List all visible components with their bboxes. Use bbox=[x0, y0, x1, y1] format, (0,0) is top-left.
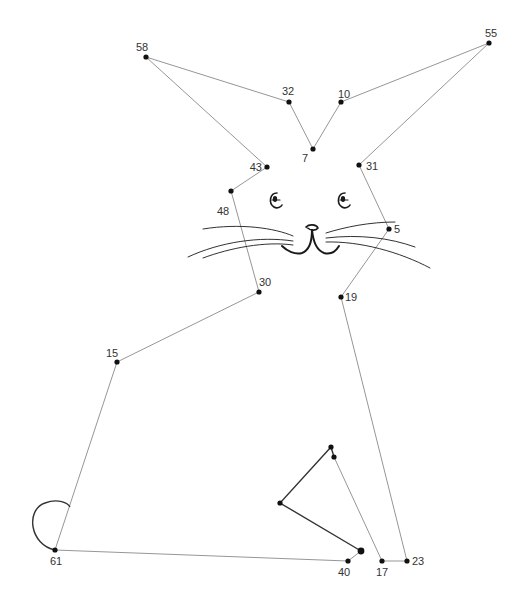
dot-unlabeled bbox=[358, 548, 365, 555]
dot-40: 40 bbox=[338, 558, 351, 578]
dot-marker bbox=[338, 99, 343, 104]
dot-unlabeled bbox=[331, 454, 336, 459]
dot-marker bbox=[328, 444, 333, 449]
dot-19: 19 bbox=[338, 291, 357, 303]
dot-unlabeled bbox=[277, 500, 282, 505]
right-eye-icon bbox=[338, 193, 350, 208]
dot-marker bbox=[486, 40, 491, 45]
dot-marker bbox=[331, 454, 336, 459]
dot-number-label: 19 bbox=[345, 291, 357, 303]
dot-marker bbox=[277, 500, 282, 505]
dot-32: 32 bbox=[282, 85, 294, 105]
dot-number-label: 58 bbox=[136, 41, 148, 53]
connecting-lines bbox=[55, 43, 489, 561]
dot-marker bbox=[143, 54, 148, 59]
dot-to-dot-canvas: 583210557433148530191561401723 bbox=[0, 0, 523, 600]
dot-number-label: 30 bbox=[259, 276, 271, 288]
dot-marker bbox=[52, 547, 57, 552]
dot-number-label: 23 bbox=[412, 555, 424, 567]
dot-number-label: 5 bbox=[394, 223, 400, 235]
dot-marker bbox=[345, 558, 350, 563]
left-eye-icon bbox=[270, 193, 282, 208]
dot-number-label: 17 bbox=[376, 566, 388, 578]
dot-48: 48 bbox=[217, 188, 234, 217]
dot-55: 55 bbox=[485, 27, 497, 46]
dot-15: 15 bbox=[106, 347, 120, 365]
dot-number-label: 40 bbox=[338, 566, 350, 578]
left-whiskers bbox=[188, 226, 293, 258]
dot-number-label: 61 bbox=[50, 555, 62, 567]
dot-31: 31 bbox=[356, 160, 378, 172]
dot-7: 7 bbox=[302, 146, 316, 164]
guide-line bbox=[146, 43, 489, 561]
dot-marker bbox=[264, 164, 269, 169]
dot-23: 23 bbox=[404, 555, 424, 567]
dot-marker bbox=[379, 558, 384, 563]
dot-58: 58 bbox=[136, 41, 149, 60]
leg-outline bbox=[280, 447, 361, 551]
dot-marker bbox=[338, 294, 343, 299]
dot-number-label: 43 bbox=[250, 161, 262, 173]
dot-number-label: 31 bbox=[366, 160, 378, 172]
dot-10: 10 bbox=[338, 88, 350, 105]
dot-number-label: 7 bbox=[302, 152, 308, 164]
dot-number-label: 15 bbox=[106, 347, 118, 359]
dot-30: 30 bbox=[256, 276, 271, 295]
leg-line bbox=[280, 447, 361, 551]
dot-marker bbox=[356, 162, 361, 167]
dot-marker bbox=[256, 289, 261, 294]
dot-marker bbox=[404, 558, 409, 563]
dot-marker bbox=[228, 188, 233, 193]
dot-marker bbox=[358, 548, 365, 555]
dot-marker bbox=[286, 99, 291, 104]
dot-number-label: 48 bbox=[217, 205, 229, 217]
dot-43: 43 bbox=[250, 161, 270, 173]
dot-number-label: 10 bbox=[338, 88, 350, 100]
dot-marker bbox=[114, 359, 119, 364]
dot-marker bbox=[386, 226, 391, 231]
dot-number-label: 55 bbox=[485, 27, 497, 39]
dot-5: 5 bbox=[386, 223, 400, 235]
dot-number-label: 32 bbox=[282, 85, 294, 97]
tail-outline bbox=[33, 501, 70, 550]
dot-marker bbox=[310, 146, 315, 151]
dot-unlabeled bbox=[328, 444, 333, 449]
numbered-dots: 583210557433148530191561401723 bbox=[50, 27, 497, 578]
guide-line bbox=[55, 57, 361, 561]
